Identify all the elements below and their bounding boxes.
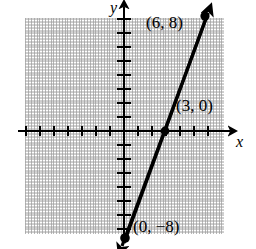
point-label-3-0: (3, 0) xyxy=(176,97,213,114)
data-point-0-neg8 xyxy=(120,233,130,243)
data-point-6-8 xyxy=(200,11,209,20)
graph-figure: y x (6, 8) (3, 0) (0, −8) xyxy=(0,0,256,249)
y-axis-group xyxy=(117,7,131,240)
y-axis-label: y xyxy=(110,0,117,16)
point-label-6-8: (6, 8) xyxy=(146,14,183,31)
x-axis-label: x xyxy=(236,134,243,150)
data-point-3-0 xyxy=(161,127,170,136)
point-label-0-neg8: (0, −8) xyxy=(133,218,179,235)
coordinate-plane-plot xyxy=(0,0,256,249)
